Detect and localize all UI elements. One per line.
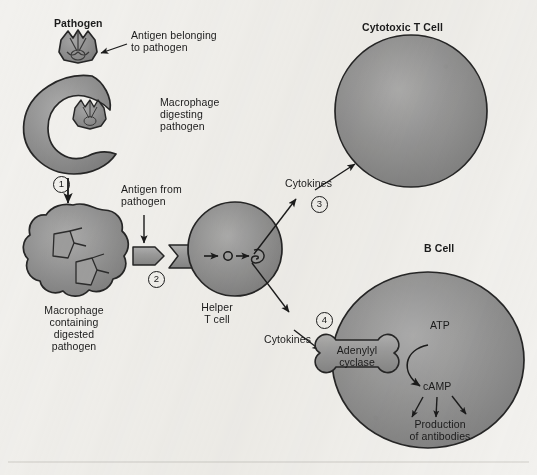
label-macrophage-digesting: Macrophage digesting pathogen (160, 97, 219, 133)
step-badge-2: 2 (148, 271, 165, 288)
label-atp: ATP (430, 320, 450, 332)
label-adenylyl-cyclase: Adenylyl cyclase (337, 345, 378, 369)
step-badge-3: 3 (311, 196, 328, 213)
label-production-of-antibodies: Production of antibodies (410, 419, 471, 443)
step-badge-1: 1 (53, 176, 70, 193)
cytotoxic-t-cell-shape (335, 35, 487, 187)
label-antigen-belonging: Antigen belonging to pathogen (131, 30, 217, 54)
diagram-canvas: Pathogen Antigen belonging to pathogen M… (0, 0, 537, 475)
label-pathogen: Pathogen (54, 18, 103, 30)
presented-antigen-shape (133, 247, 164, 265)
step-badge-4: 4 (316, 312, 333, 329)
label-cytokines-upper: Cytokines (285, 178, 332, 190)
pathogen-inside-macrophage-shape (73, 100, 106, 129)
helper-t-cell-shape (188, 202, 282, 296)
label-cytokines-lower: Cytokines (264, 334, 311, 346)
diagram-graphics (0, 0, 537, 475)
pathogen-shape (59, 30, 97, 63)
label-helper-t-cell: Helper T cell (201, 302, 233, 326)
antigen-pointer-arrow (101, 44, 127, 53)
label-antigen-from-pathogen: Antigen from pathogen (121, 184, 182, 208)
label-b-cell: B Cell (424, 243, 454, 255)
macrophage-containing-shape (23, 204, 128, 296)
label-macrophage-containing: Macrophage containing digested pathogen (44, 305, 103, 353)
label-camp: cAMP (423, 381, 451, 393)
label-cytotoxic-t-cell: Cytotoxic T Cell (362, 22, 443, 34)
